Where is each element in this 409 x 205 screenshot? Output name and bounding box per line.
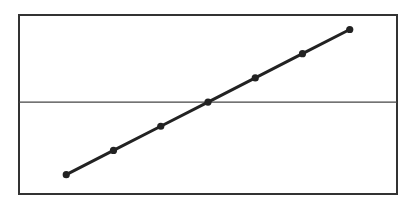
data-point-marker <box>204 98 211 105</box>
data-point-marker <box>110 147 117 154</box>
line-chart <box>0 0 409 205</box>
data-point-marker <box>346 26 353 33</box>
data-point-marker <box>299 50 306 57</box>
data-point-marker <box>63 171 70 178</box>
data-point-marker <box>252 74 259 81</box>
data-point-marker <box>157 123 164 130</box>
